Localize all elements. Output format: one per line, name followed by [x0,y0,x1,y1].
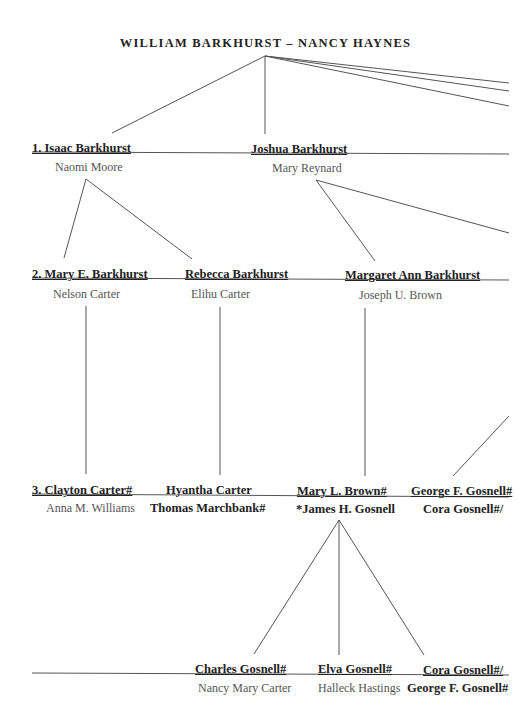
connector-offpage-george [453,416,509,476]
spouse-anna-m-williams: Anna M. Williams [46,501,135,515]
person-margaret-ann-barkhurst: Margaret Ann Barkhurst [345,268,480,282]
person-hyantha-carter: Hyantha Carter [166,483,252,497]
connector-root-isaac [112,56,265,133]
spouse-george-f-gosnell: George F. Gosnell# [407,681,508,695]
spouse-naomi-moore: Naomi Moore [55,160,123,174]
connector-isaac-mary [64,179,86,258]
person-george-f-gosnell: George F. Gosnell# [411,484,512,498]
connector-joshua-margaret [316,180,375,261]
spouse-halleck-hastings: Halleck Hastings [318,681,400,695]
person-cora-gosnell: Cora Gosnell#/ [423,663,503,677]
connector-root-offpage-3 [265,56,509,106]
person-joshua-barkhurst: Joshua Barkhurst [251,142,347,156]
connector-root-offpage-2 [265,56,509,91]
person-rebecca-barkhurst: Rebecca Barkhurst [185,267,288,281]
spouse-james-h-gosnell: *James H. Gosnell [296,502,395,516]
person-mary-l-brown: Mary L. Brown# [297,484,387,498]
spouse-elihu-carter: Elihu Carter [191,287,250,301]
person-clayton-carter: 3. Clayton Carter# [32,483,132,497]
person-elva-gosnell: Elva Gosnell# [318,662,392,676]
person-mary-e-barkhurst: 2. Mary E. Barkhurst [32,267,148,281]
person-charles-gosnell: Charles Gosnell# [195,662,286,676]
connector-james-cora [339,520,424,655]
spouse-nancy-mary-carter: Nancy Mary Carter [198,681,291,695]
spouse-mary-reynard: Mary Reynard [272,161,342,175]
connector-root-offpage-1 [265,56,509,83]
person-isaac-barkhurst: 1. Isaac Barkhurst [32,141,131,155]
spouse-cora-gosnell: Cora Gosnell#/ [423,502,503,516]
connector-joshua-offpage [316,180,509,233]
spouse-thomas-marchbank: Thomas Marchbank# [150,501,265,515]
connector-james-charles [254,520,339,654]
connector-isaac-rebecca [86,179,192,259]
spouse-joseph-u-brown: Joseph U. Brown [359,288,442,302]
spouse-nelson-carter: Nelson Carter [53,287,120,301]
